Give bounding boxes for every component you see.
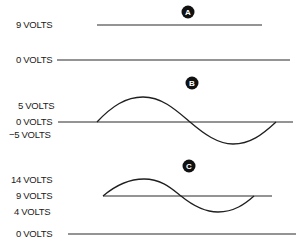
label-9-volts: 9 VOLTS bbox=[16, 19, 52, 30]
label-9-volts: 9 VOLTS bbox=[16, 190, 52, 201]
label-4-volts: 4 VOLTS bbox=[14, 206, 50, 217]
badge-b: B bbox=[186, 77, 199, 90]
voltage-diagram: A 9 VOLTS 0 VOLTS B 5 VOLTS 0 VOLTS −5 V… bbox=[0, 0, 301, 250]
label-0-volts: 0 VOLTS bbox=[16, 54, 52, 65]
panel-c: C 14 VOLTS 9 VOLTS 4 VOLTS 0 VOLTS bbox=[11, 160, 296, 240]
badge-c-label: C bbox=[186, 162, 192, 171]
badge-a: A bbox=[182, 6, 195, 19]
label-14-volts: 14 VOLTS bbox=[11, 174, 52, 185]
badge-a-label: A bbox=[185, 8, 191, 17]
badge-b-label: B bbox=[189, 79, 195, 88]
panel-b: B 5 VOLTS 0 VOLTS −5 VOLTS bbox=[9, 77, 293, 145]
label-5-volts: 5 VOLTS bbox=[18, 100, 54, 111]
badge-c: C bbox=[183, 160, 196, 173]
label-0-volts: 0 VOLTS bbox=[16, 228, 52, 239]
ac-sine-wave bbox=[97, 97, 276, 144]
panel-a: A 9 VOLTS 0 VOLTS bbox=[16, 6, 290, 66]
label-minus-5-volts: −5 VOLTS bbox=[9, 129, 51, 140]
label-0-volts: 0 VOLTS bbox=[16, 116, 52, 127]
